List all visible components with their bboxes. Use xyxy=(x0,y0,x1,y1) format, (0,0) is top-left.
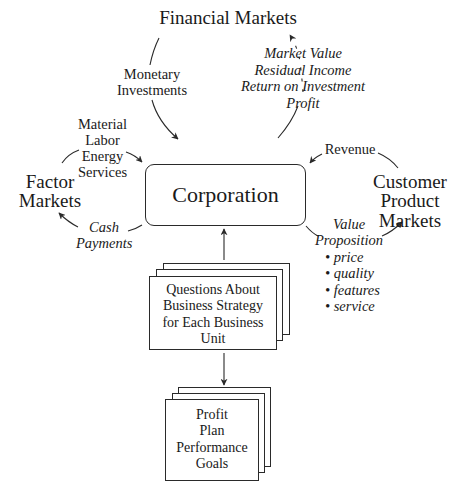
value-proposition-line: Proposition xyxy=(314,232,384,248)
bullet-text: service xyxy=(334,298,375,314)
profit-plan-line: Profit xyxy=(166,407,258,423)
business-strategy-line: Unit xyxy=(150,331,276,347)
flow-value-proposition: Value Proposition xyxy=(314,216,384,249)
financial-markets-label: Financial Markets xyxy=(148,8,308,27)
arrow-revenue xyxy=(310,154,322,163)
returns-line: Profit xyxy=(238,95,368,112)
bullet-text: price xyxy=(334,249,364,265)
node-factor-markets: Factor Markets xyxy=(10,172,90,211)
returns-line: Market Value xyxy=(238,45,368,62)
node-corporation: Corporation xyxy=(145,164,306,226)
flow-revenue: Revenue xyxy=(322,141,378,157)
returns-line: Residual Income xyxy=(238,62,368,79)
node-financial-markets: Financial Markets xyxy=(148,8,308,27)
bullet-text: features xyxy=(334,282,380,298)
returns-line: Return on Investment xyxy=(238,78,368,95)
arrow-monetary-top xyxy=(150,38,159,65)
arrow-revenue-right xyxy=(378,153,398,168)
business-strategy-line: Questions About xyxy=(150,282,276,298)
factor-input-line: Energy xyxy=(70,149,135,165)
business-strategy-line: for Each Business xyxy=(150,315,276,331)
factor-input-line: Labor xyxy=(70,133,135,149)
bullet-item: • features xyxy=(325,282,395,298)
monetary-investments-line: Monetary xyxy=(108,66,196,82)
customer-markets-line: Customer xyxy=(370,172,450,191)
cash-payments-line: Payments xyxy=(76,235,132,251)
customer-markets-line: Product xyxy=(370,191,450,210)
business-strategy-text: Questions About Business Strategy for Ea… xyxy=(150,282,276,348)
business-strategy-line: Business Strategy xyxy=(150,298,276,314)
cash-payments-line: Cash xyxy=(76,219,132,235)
value-proposition-bullets: • price • quality • features • service xyxy=(325,249,395,315)
flow-monetary-investments: Monetary Investments xyxy=(108,66,196,99)
profit-plan-line: Performance xyxy=(166,440,258,456)
profit-plan-line: Plan xyxy=(166,423,258,439)
corporation-label: Corporation xyxy=(172,182,278,208)
bullet-text: quality xyxy=(334,265,374,281)
bullet-item: • quality xyxy=(325,265,395,281)
profit-plan-text: Profit Plan Performance Goals xyxy=(166,407,258,473)
flow-returns: Market Value Residual Income Return on I… xyxy=(238,45,368,111)
profit-plan-line: Goals xyxy=(166,456,258,472)
stack-sheet-front: Profit Plan Performance Goals xyxy=(165,399,259,481)
bullet-item: • price xyxy=(325,249,395,265)
factor-markets-line: Factor xyxy=(10,172,90,191)
revenue-label: Revenue xyxy=(322,141,378,157)
bullet-item: • service xyxy=(325,298,395,314)
monetary-investments-line: Investments xyxy=(108,82,196,98)
flow-cash-payments: Cash Payments xyxy=(76,219,132,252)
factor-markets-line: Markets xyxy=(10,191,90,210)
value-proposition-line: Value xyxy=(314,216,384,232)
stack-sheet-front: Questions About Business Strategy for Ea… xyxy=(149,276,277,350)
arrow-monetary-investments xyxy=(152,100,178,139)
factor-input-line: Material xyxy=(70,117,135,133)
